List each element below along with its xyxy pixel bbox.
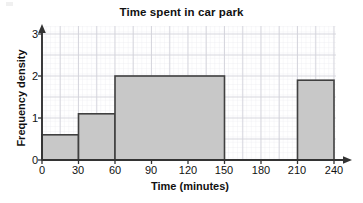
bar-30-60 xyxy=(79,114,116,160)
bar-0-30 xyxy=(42,135,79,160)
bar-210-240 xyxy=(298,80,335,160)
plot-area xyxy=(0,0,363,203)
bar-60-150 xyxy=(115,76,225,160)
histogram-chart: Time spent in car park Frequency density… xyxy=(0,0,363,203)
